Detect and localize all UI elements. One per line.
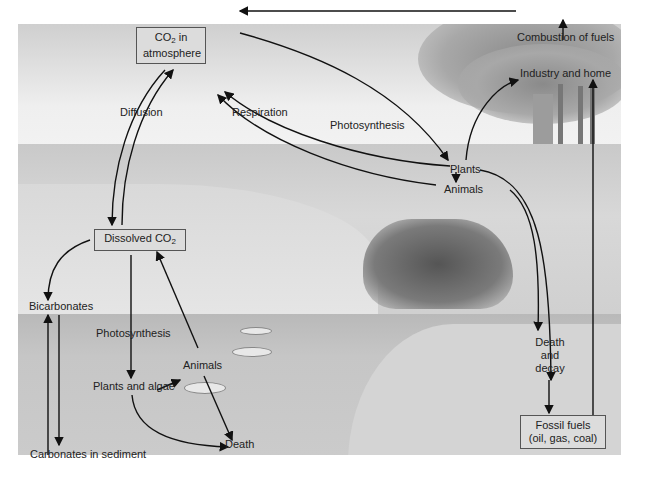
dissolved-co2-label: Dissolved CO <box>104 232 171 244</box>
death-decay-line2: and <box>530 349 570 362</box>
co2-in-label: in <box>176 31 188 43</box>
co2-label: CO <box>155 31 172 43</box>
atmosphere-label: atmosphere <box>143 47 199 60</box>
industry-label: Industry and home <box>520 67 611 80</box>
carbon-cycle-diagram: CO2 in atmosphere Combustion of fuels In… <box>0 0 647 479</box>
bicarbonates-label: Bicarbonates <box>29 300 93 313</box>
animals-water-label: Animals <box>183 359 222 372</box>
carbonates-label: Carbonates in sediment <box>30 448 146 461</box>
co2-atmosphere-box: CO2 in atmosphere <box>136 27 206 64</box>
fossil-fuels-line2: (oil, gas, coal) <box>527 432 599 445</box>
plants-label: Plants <box>450 163 481 176</box>
death-label: Death <box>225 438 254 451</box>
photosynthesis-top-label: Photosynthesis <box>330 119 405 132</box>
fossil-fuels-line1: Fossil fuels <box>527 419 599 432</box>
fossil-fuels-box: Fossil fuels (oil, gas, coal) <box>520 415 606 449</box>
plants-algae-label: Plants and algae <box>93 380 175 393</box>
death-decay-line1: Death <box>530 336 570 349</box>
death-decay-line3: decay <box>530 362 570 375</box>
diffusion-label: Diffusion <box>120 106 163 119</box>
dissolved-co2-box: Dissolved CO2 <box>94 229 186 251</box>
combustion-label: Combustion of fuels <box>517 31 614 44</box>
photosynthesis-water-label: Photosynthesis <box>96 327 171 340</box>
subscript: 2 <box>171 237 175 246</box>
death-decay-label: Death and decay <box>530 336 570 375</box>
respiration-label: Respiration <box>232 106 288 119</box>
animals-land-label: Animals <box>444 183 483 196</box>
